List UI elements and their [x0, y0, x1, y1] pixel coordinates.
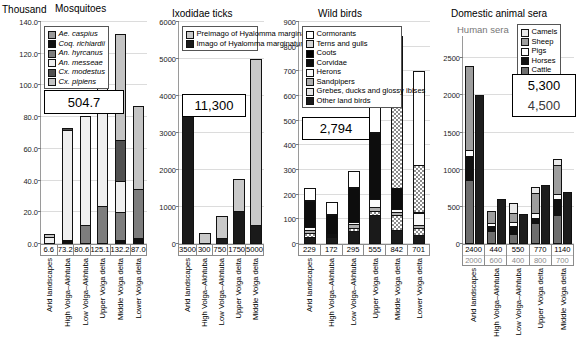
wild-birds-value-row: 229172295555842701 [298, 244, 430, 256]
stacked-bar[interactable] [182, 115, 194, 245]
legend-label: Cx. modestus [59, 67, 105, 76]
x-axis-category: Arid landscapes [462, 268, 484, 360]
bar-segment [327, 216, 337, 235]
stacked-bar[interactable] [115, 34, 126, 244]
stacked-bar[interactable] [44, 234, 55, 244]
x-axis-category: Arid landscapes [40, 258, 58, 358]
bar-segment [466, 157, 473, 181]
x-axis-category-label: Arid landscapes [182, 258, 191, 312]
bar-total-label: 842 [386, 245, 408, 255]
bar-segment [217, 239, 227, 243]
stacked-bar[interactable] [233, 179, 245, 244]
legend-label: Pigs [532, 46, 547, 55]
human-sera-bar[interactable] [497, 199, 506, 244]
stacked-bar[interactable] [216, 216, 228, 244]
y-axis-tick-label: 20.0 [23, 208, 41, 217]
bar-segment [349, 189, 359, 223]
y-axis-tick-label: 60.0 [23, 144, 41, 153]
legend-item: Cormorants [306, 29, 398, 39]
bar-segment [532, 194, 539, 213]
x-axis-category: Arid landscapes [178, 258, 195, 358]
bar-total-label: 555 [364, 245, 386, 255]
bar-segment [466, 67, 473, 151]
bar-segment [134, 190, 143, 238]
legend-label: Grebes, ducks and glossy ibises [317, 86, 426, 95]
legend-label: Cormorants [317, 29, 357, 38]
mosquitoes-category-row: Arid landscapesHigh Volga–AkhtubaLow Vol… [40, 258, 147, 358]
x-axis-category: Upper Volga delta [230, 258, 247, 358]
stacked-bar[interactable] [250, 59, 262, 244]
legend-label: Cattle [532, 65, 552, 74]
bar-segment [251, 226, 261, 243]
legend-label: Sheep [532, 37, 554, 46]
legend-label: Coq. richiardii [59, 39, 105, 48]
human-sera-bar[interactable] [541, 185, 550, 244]
stacked-bar[interactable] [326, 202, 338, 244]
panel-wild-birds: Wild birds 0100200300400500600700800900 … [270, 0, 435, 362]
legend-item: Corvidae [306, 58, 398, 68]
y-axis-tick-label: 3000 [159, 129, 179, 138]
bar-segment [63, 131, 72, 242]
bar-total-label: 73.2 [58, 245, 75, 255]
human-sera-bar[interactable] [475, 95, 484, 244]
stacked-bar[interactable] [62, 128, 73, 244]
figure-root: Thousand Mosquitoes 0.020.040.060.080.01… [0, 0, 577, 362]
legend-label: Sandpipers [317, 77, 355, 86]
bar-segment [370, 200, 380, 208]
human-sera-bar[interactable] [519, 214, 528, 244]
x-axis-category: Low Volga–Akhtuba [507, 268, 529, 360]
legend-label: Corvidae [317, 58, 347, 67]
stacked-bar[interactable] [413, 71, 425, 244]
bar-segment [414, 229, 424, 236]
y-axis-tick-label: 500 [283, 116, 299, 125]
bar-segment [81, 226, 90, 243]
x-axis-category-label: Upper Volga delta [98, 258, 107, 318]
bar-segment [45, 238, 54, 243]
y-axis-tick-label: 300 [283, 166, 299, 175]
bar-total-label: 172 [321, 245, 343, 255]
bar-total-label: 132.2 [111, 245, 131, 255]
bar-slot [213, 22, 230, 244]
x-axis-category: Low Volga–Akhtuba [342, 258, 364, 358]
human-sera-total-label: 600 [485, 255, 506, 266]
wild-birds-callout: 2,794 [302, 117, 370, 140]
stacked-bar[interactable] [509, 203, 518, 244]
domestic-animal-sera-category-row: Arid landscapesHigh Volga–AkhtubaLow Vol… [462, 268, 574, 360]
bar-segment [327, 203, 337, 215]
x-axis-category-label: Middle Volga delta [116, 258, 125, 320]
y-axis-tick-label: 600 [283, 92, 299, 101]
y-axis-tick-label: 5000 [159, 55, 179, 64]
y-axis-tick-label: 400 [283, 141, 299, 150]
panel-mosquitoes: Thousand Mosquitoes 0.020.040.060.080.01… [0, 0, 150, 362]
legend-label: Herons [317, 67, 341, 76]
stacked-bar[interactable] [531, 187, 540, 244]
x-axis-category-label: Low Volga–Akhtuba [80, 258, 89, 325]
bar-segment [392, 103, 402, 188]
x-axis-category: Arid landscapes [298, 258, 320, 358]
stacked-bar[interactable] [304, 188, 316, 244]
y-axis-tick-label: 2000 [159, 166, 179, 175]
stacked-bar[interactable] [465, 66, 474, 244]
bar-total-label: 1140700 [552, 245, 574, 265]
stacked-bar[interactable] [348, 171, 360, 244]
x-axis-category-label: High Volga–Akhtuba [327, 258, 336, 327]
panel-domestic-animal-sera: Domestic animal sera Human sera 05001000… [435, 0, 577, 362]
x-axis-category-label: Arid landscapes [305, 258, 314, 312]
x-axis-category-label: Low Volga–Akhtuba [514, 268, 523, 335]
stacked-bar[interactable] [553, 159, 562, 244]
bar-segment [81, 117, 90, 226]
y-axis-tick-label: 40.0 [23, 176, 41, 185]
stacked-bar[interactable] [80, 116, 91, 244]
stacked-bar[interactable] [199, 233, 211, 244]
stacked-bar[interactable] [369, 107, 381, 244]
bar-segment [234, 212, 244, 243]
stacked-bar[interactable] [487, 211, 496, 244]
bar-total-label: 5000 [246, 245, 264, 255]
ixodidae-callout: 11,300 [182, 94, 246, 117]
bar-segment [134, 239, 143, 243]
human-sera-bar[interactable] [563, 192, 572, 244]
x-axis-category: Upper Volga delta [529, 268, 551, 360]
y-axis-tick-label: 100 [283, 215, 299, 224]
bar-segment [200, 234, 210, 243]
stacked-bar[interactable] [133, 106, 144, 244]
